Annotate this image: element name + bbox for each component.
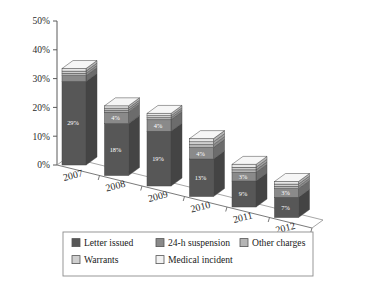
bar-segment-front	[105, 108, 129, 110]
bar-value-label: 3%	[281, 189, 290, 196]
legend-swatch	[156, 256, 164, 264]
bar-segment-front	[105, 110, 129, 112]
bar-value-label: 18%	[110, 146, 122, 153]
bar-segment-front	[190, 139, 214, 142]
x-axis-category-label: 2011	[232, 210, 254, 225]
bar-segment-front	[62, 73, 86, 75]
bar-column: 9%3%	[232, 156, 267, 207]
legend-swatch	[240, 239, 248, 247]
legend-item[interactable]: 24-h suspension	[156, 237, 230, 248]
legend-swatch	[72, 239, 80, 247]
bar-value-label: 7%	[281, 204, 290, 211]
x-axis-category-label: 2009	[147, 188, 169, 204]
bar-segment-front	[105, 106, 129, 108]
x-axis-tick	[141, 186, 142, 191]
bar-column: 29%	[62, 61, 97, 165]
bar-column: 19%4%	[147, 105, 182, 186]
bar-segment-front	[147, 116, 171, 118]
y-axis-tick-label: 0%	[37, 160, 50, 170]
legend-label: Letter issued	[84, 237, 133, 248]
bar-value-label: 3%	[239, 173, 248, 180]
bar-segment-front	[62, 69, 86, 72]
x-axis-category-label: 2007	[62, 167, 84, 183]
bar-segment-side	[86, 73, 97, 165]
x-axis-tick	[268, 218, 269, 223]
y-axis-tick-label: 40%	[33, 45, 51, 55]
bar-value-label: 9%	[239, 190, 248, 197]
bar-value-label: 4%	[154, 122, 163, 129]
bar-segment-front	[190, 145, 214, 148]
legend-swatch	[72, 256, 80, 264]
bar-segment: 29%	[62, 73, 97, 165]
bar-segment-side	[129, 116, 140, 176]
chart-plot: 0%10%20%30%40%50%20072008200920102011201…	[33, 16, 323, 276]
bars-group: 7%3%9%3%13%4%19%4%18%4%29%	[62, 61, 310, 218]
floor-edge-right	[312, 220, 323, 228]
stacked-column-chart-3d: 0%10%20%30%40%50%20072008200920102011201…	[0, 0, 375, 286]
bar-value-label: 4%	[196, 150, 205, 157]
y-axis-tick-label: 20%	[33, 103, 51, 113]
bar-segment-front	[232, 170, 256, 173]
bar-segment-front	[232, 164, 256, 167]
chart-legend: Letter issued24-h suspensionOther charge…	[63, 232, 313, 276]
legend-item[interactable]: Medical incident	[156, 254, 233, 265]
bar-segment-side	[171, 123, 182, 186]
bar-segment-front	[62, 76, 86, 82]
y-axis-tick-label: 10%	[33, 132, 51, 142]
bar-segment-front	[275, 186, 299, 188]
bar-value-label: 4%	[111, 114, 120, 121]
legend-label: Other charges	[252, 237, 306, 248]
legend-swatch	[156, 239, 164, 247]
bar-value-label: 13%	[195, 174, 207, 181]
legend-label: Medical incident	[168, 254, 233, 265]
x-axis-category-label: 2010	[189, 199, 211, 215]
bar-column: 13%4%	[190, 131, 225, 197]
x-axis-tick	[226, 207, 227, 212]
bar-segment-front	[232, 167, 256, 170]
bar-segment: 19%	[147, 123, 182, 186]
chart-container: 0%10%20%30%40%50%20072008200920102011201…	[0, 0, 375, 286]
bar-value-label: 29%	[67, 119, 79, 126]
bar-value-label: 19%	[152, 155, 164, 162]
y-axis-tick-label: 50%	[33, 16, 51, 26]
x-axis-category-label: 2008	[104, 178, 126, 194]
legend-item[interactable]: Warrants	[72, 254, 119, 265]
legend-label: Warrants	[84, 254, 119, 265]
y-axis: 0%10%20%30%40%50%	[33, 16, 57, 170]
bar-segment-front	[147, 113, 171, 115]
x-axis-tick	[98, 176, 99, 181]
bar-segment-front	[190, 142, 214, 145]
x-axis-tick	[183, 197, 184, 202]
bar-segment-front	[147, 118, 171, 120]
bar-segment: 18%	[105, 116, 140, 176]
bar-segment-front	[62, 71, 86, 73]
y-axis-tick-label: 30%	[33, 74, 51, 84]
bar-segment-front	[275, 184, 299, 186]
bar-column: 18%4%	[105, 98, 140, 176]
bar-segment-front	[275, 182, 299, 185]
legend-label: 24-h suspension	[168, 237, 230, 248]
bar-column: 7%3%	[275, 174, 310, 218]
